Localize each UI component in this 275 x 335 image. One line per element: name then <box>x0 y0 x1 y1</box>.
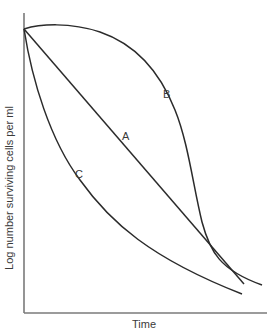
survival-curve-chart: A B C Time Log number surviving cells pe… <box>0 0 275 335</box>
curve-b-label: B <box>163 88 170 100</box>
y-axis-label: Log number surviving cells per ml <box>3 106 15 270</box>
curve-b <box>24 25 262 285</box>
curve-a-label: A <box>122 130 130 142</box>
curve-c <box>24 29 242 294</box>
x-axis-label: Time <box>132 318 156 330</box>
curve-c-label: C <box>75 168 83 180</box>
